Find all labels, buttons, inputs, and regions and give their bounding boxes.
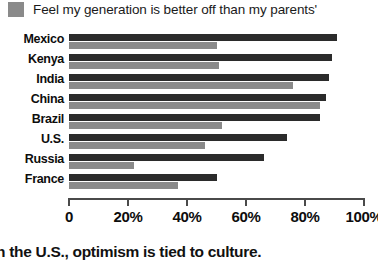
- legend-swatch-icon: [8, 2, 24, 17]
- category-label-brazil: Brazil: [0, 113, 69, 126]
- legend-label: Feel my generation is better off than my…: [33, 2, 317, 17]
- category-label-india: India: [0, 73, 69, 86]
- bar-dark: [69, 34, 337, 41]
- bar-gray: [69, 182, 178, 189]
- axis-tick-label: 40%: [173, 208, 202, 225]
- chart-plot-area: MexicoKenyaIndiaChinaBrazilU.S.RussiaFra…: [0, 33, 378, 201]
- chart-legend: Feel my generation is better off than my…: [8, 2, 317, 17]
- bar-dark: [69, 134, 287, 141]
- axis-tick: [245, 198, 247, 206]
- bar-rows: MexicoKenyaIndiaChinaBrazilU.S.RussiaFra…: [0, 33, 378, 193]
- bar-gray: [69, 162, 134, 169]
- axis-tick-label: 60%: [232, 208, 261, 225]
- bar-gray: [69, 62, 219, 69]
- axis-tick-label: 80%: [291, 208, 320, 225]
- axis-tick-label: 100%: [346, 208, 378, 225]
- bar-gray: [69, 82, 293, 89]
- bar-dark: [69, 154, 264, 161]
- category-label-mexico: Mexico: [0, 33, 69, 46]
- chart-page: Feel my generation is better off than my…: [0, 0, 378, 268]
- bar-row: France: [0, 173, 378, 193]
- bar-dark: [69, 54, 332, 61]
- bar-group: [69, 93, 378, 113]
- bar-row: China: [0, 93, 378, 113]
- bar-dark: [69, 74, 329, 81]
- axis-tick: [68, 198, 70, 206]
- bar-row: India: [0, 73, 378, 93]
- axis-tick: [304, 198, 306, 206]
- category-label-france: France: [0, 173, 69, 186]
- bar-gray: [69, 122, 222, 129]
- bar-group: [69, 153, 378, 173]
- bar-group: [69, 73, 378, 93]
- x-axis-line: [69, 198, 364, 200]
- category-label-russia: Russia: [0, 153, 69, 166]
- bar-dark: [69, 114, 320, 121]
- axis-tick-label: 20%: [114, 208, 143, 225]
- bar-row: Russia: [0, 153, 378, 173]
- chart-caption: n the U.S., optimism is tied to culture.: [0, 243, 261, 261]
- bar-row: Mexico: [0, 33, 378, 53]
- bar-row: Kenya: [0, 53, 378, 73]
- bar-group: [69, 173, 378, 193]
- category-label-china: China: [0, 93, 69, 106]
- axis-tick-label: 0: [65, 208, 73, 225]
- bar-group: [69, 33, 378, 53]
- bar-dark: [69, 174, 217, 181]
- bar-gray: [69, 142, 205, 149]
- bar-group: [69, 133, 378, 153]
- bar-gray: [69, 102, 320, 109]
- axis-tick: [363, 198, 365, 206]
- axis-tick: [186, 198, 188, 206]
- bar-gray: [69, 42, 217, 49]
- axis-tick: [127, 198, 129, 206]
- bar-dark: [69, 94, 326, 101]
- bar-row: Brazil: [0, 113, 378, 133]
- bar-group: [69, 113, 378, 133]
- category-label-us: U.S.: [0, 133, 69, 146]
- bar-group: [69, 53, 378, 73]
- bar-row: U.S.: [0, 133, 378, 153]
- category-label-kenya: Kenya: [0, 53, 69, 66]
